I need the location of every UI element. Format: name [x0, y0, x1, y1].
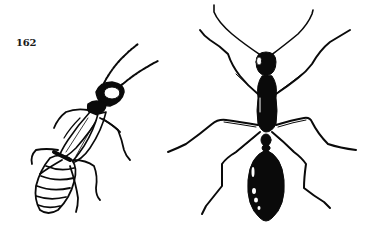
illustration-canvas [0, 0, 376, 232]
left-insect-figure [32, 44, 159, 213]
ant-eye [257, 57, 262, 65]
ant-antennae [214, 5, 313, 56]
right-insect-figure [168, 5, 356, 221]
ant-petiole [261, 134, 271, 146]
left-insect-abdomen [36, 152, 76, 213]
ant-gaster [248, 150, 285, 221]
